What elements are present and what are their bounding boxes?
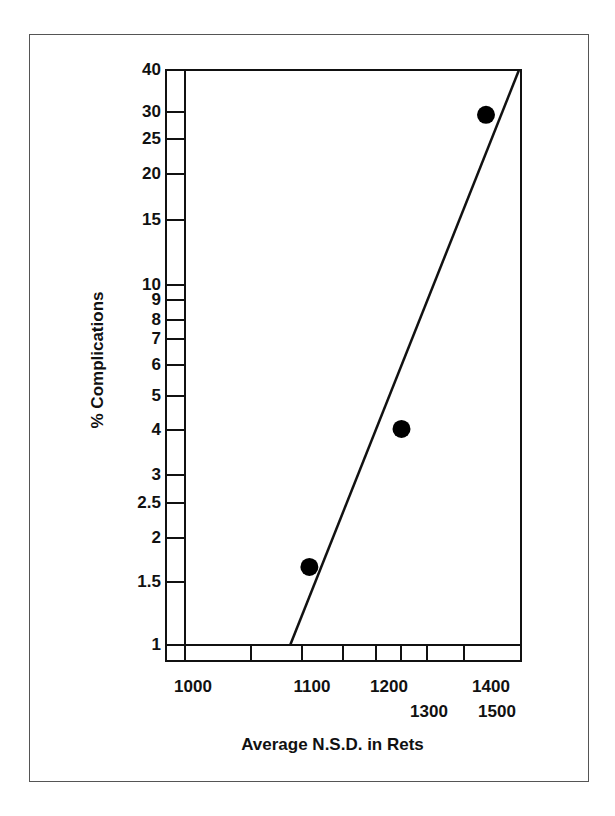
y-tick-label: 1.5: [111, 573, 161, 590]
data-points: [300, 106, 495, 576]
y-tick-label: 5: [111, 387, 161, 404]
y-tick-label: 30: [111, 103, 161, 120]
y-tick-label: 2: [111, 529, 161, 546]
y-tick-label: 4: [111, 421, 161, 438]
y-tick-label: 1: [111, 636, 161, 653]
y-tick-label: 2.5: [111, 494, 161, 511]
y-tick-label: 3: [111, 466, 161, 483]
data-point: [477, 106, 495, 124]
y-axis-label: % Complications: [88, 292, 108, 429]
y-tick-label: 40: [111, 61, 161, 78]
y-ticks: [166, 112, 185, 582]
x-tick-label: 1200: [370, 678, 408, 695]
x-tick-label: 1000: [174, 678, 212, 695]
x-tick-label: 1100: [294, 678, 331, 695]
data-point: [393, 420, 411, 438]
x-tick-label: 1500: [478, 703, 516, 720]
trend-line: [290, 70, 519, 645]
axes: [166, 70, 521, 661]
y-tick-label: 8: [111, 311, 161, 328]
x-axis-label: Average N.S.D. in Rets: [0, 735, 615, 755]
axis-box: [166, 70, 521, 661]
y-tick-label: 9: [111, 291, 161, 308]
y-tick-label: 7: [111, 330, 161, 347]
x-tick-label: 1300: [410, 703, 448, 720]
data-point: [300, 558, 318, 576]
x-tick-label: 1400: [472, 678, 510, 695]
y-tick-label: 25: [111, 130, 161, 147]
x-ticks: [251, 645, 464, 661]
y-tick-label: 20: [111, 165, 161, 182]
y-tick-label: 15: [111, 211, 161, 228]
y-tick-label: 6: [111, 356, 161, 373]
